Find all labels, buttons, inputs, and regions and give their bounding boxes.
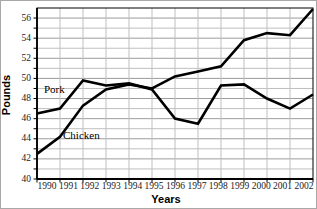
plot-area (0, 0, 317, 209)
y-tick-label: 42 (0, 153, 31, 164)
chicken-series-label: Chicken (63, 129, 100, 141)
y-tick-label: 50 (0, 73, 31, 84)
x-axis-title: Years (136, 193, 196, 205)
y-tick-label: 52 (0, 53, 31, 64)
y-tick-label: 40 (0, 174, 31, 185)
y-tick-label: 48 (0, 93, 31, 104)
y-tick-label: 56 (0, 13, 31, 24)
x-tick-label: 2002 (291, 181, 317, 192)
y-tick-label: 54 (0, 33, 31, 44)
y-tick-label: 44 (0, 133, 31, 144)
line-chart-figure: Pounds Years Pork Chicken 40424446485052… (0, 0, 317, 209)
y-tick-label: 46 (0, 113, 31, 124)
pork-series-label: Pork (44, 83, 65, 95)
